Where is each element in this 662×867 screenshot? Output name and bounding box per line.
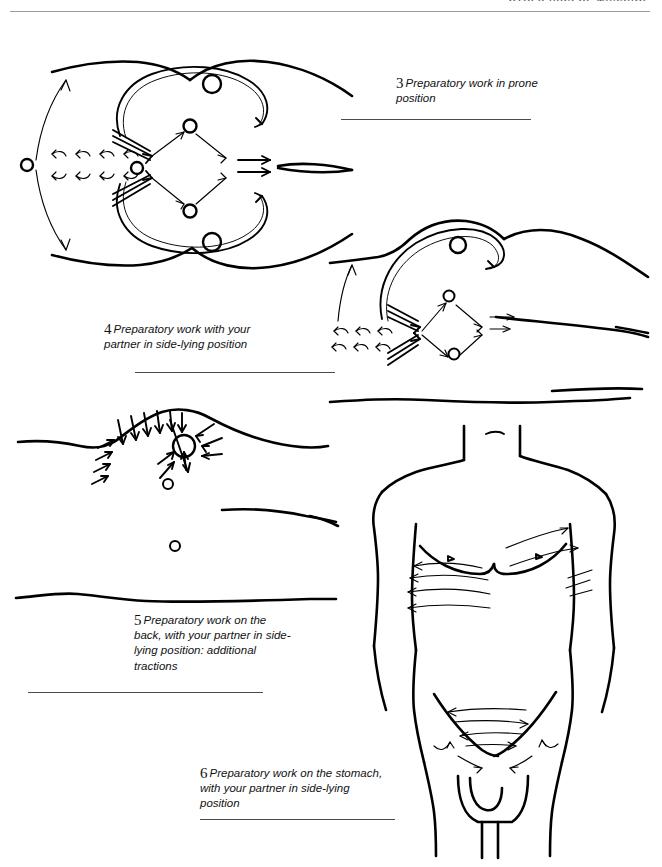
book-page: OTHER AIDS OF MASSAGE <box>0 0 662 867</box>
figure-6-number: 6 <box>200 765 210 781</box>
header-rule <box>10 11 650 12</box>
figure-5-caption-text: Preparatory work on the back, with your … <box>134 614 291 672</box>
figure-3-number: 3 <box>396 75 406 91</box>
figure-4-number: 4 <box>104 321 114 337</box>
figure-5-caption: 5Preparatory work on the back, with your… <box>134 613 294 674</box>
figure-5-rule <box>28 692 263 693</box>
figure-3-caption-text: Preparatory work in prone position <box>396 77 538 104</box>
figure-4-caption-text: Preparatory work with your partner in si… <box>104 323 250 350</box>
running-head: OTHER AIDS OF MASSAGE <box>509 0 650 1</box>
figure-3-illustration <box>0 18 360 288</box>
figure-4-illustration <box>330 215 662 395</box>
figure-3-rule <box>341 119 531 120</box>
figure-5-number: 5 <box>134 612 144 628</box>
figure-6-caption: 6Preparatory work on the stomach, with y… <box>200 766 390 812</box>
figure-4-rule <box>135 372 335 373</box>
figure-3-caption: 3Preparatory work in prone position <box>396 76 556 106</box>
figure-5-illustration <box>10 398 340 613</box>
figure-4-caption: 4Preparatory work with your partner in s… <box>104 322 289 352</box>
figure-6-rule <box>200 819 395 820</box>
figure-6-caption-text: Preparatory work on the stomach, with yo… <box>200 767 382 809</box>
